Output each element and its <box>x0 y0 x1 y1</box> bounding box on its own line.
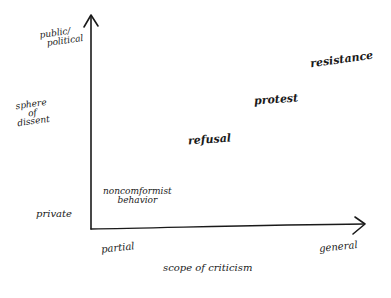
point-refusal: refusal <box>188 133 232 147</box>
point-label-line-2: behavior <box>103 196 172 205</box>
y-axis-bottom-label: private <box>36 209 72 219</box>
x-axis-arrowhead-icon <box>353 217 365 234</box>
y-axis-title: sphere of dissent <box>14 98 50 128</box>
point-noncomformist-behavior: noncomformist behavior <box>103 187 172 204</box>
dissent-diagram: public/ political sphere of dissent priv… <box>0 0 391 298</box>
x-axis-title: scope of criticism <box>163 263 252 273</box>
point-protest: protest <box>254 92 299 106</box>
x-axis-line <box>91 224 364 229</box>
